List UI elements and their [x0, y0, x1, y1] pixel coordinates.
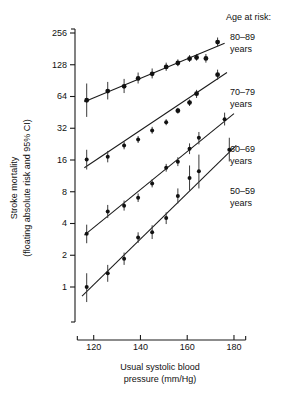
legend-entry-50-59-range: 50–59 — [230, 186, 255, 196]
y-axis-title-line1: Stroke mortality — [9, 156, 19, 219]
data-point — [122, 204, 126, 208]
y-tick-label-4: 4 — [62, 218, 67, 228]
legend-entry-60-69-range: 60–69 — [230, 144, 255, 154]
x-axis-title: Usual systolic blood pressure (mm/Hg) — [120, 362, 200, 384]
data-point — [187, 100, 192, 105]
fit-line — [82, 145, 236, 296]
data-point — [84, 98, 89, 103]
data-point — [194, 91, 199, 96]
x-tick-label-120: 120 — [86, 342, 101, 352]
chart-canvas: 1248163264128256 120140160180 Stroke mor… — [0, 0, 295, 413]
stroke-mortality-chart: 1248163264128256 120140160180 Stroke mor… — [0, 0, 295, 413]
legend-entry-70-79-unit: years — [230, 99, 253, 109]
y-tick-label-8: 8 — [62, 187, 67, 197]
series-70-79-years — [84, 70, 227, 170]
series-50-59-years — [82, 138, 236, 302]
data-point — [85, 157, 89, 161]
data-point — [136, 138, 140, 142]
data-point — [164, 216, 168, 220]
legend-heading: Age at risk: — [226, 12, 271, 22]
data-point — [197, 136, 201, 140]
data-point — [187, 56, 192, 61]
data-point — [194, 55, 199, 60]
data-point — [106, 209, 110, 213]
data-point — [176, 160, 180, 164]
series-80-89-years — [84, 38, 224, 117]
data-point — [175, 61, 180, 66]
data-point — [197, 169, 201, 173]
y-tick-label-256: 256 — [52, 28, 67, 38]
y-tick-label-16: 16 — [57, 155, 67, 165]
data-point — [122, 257, 126, 261]
data-point — [150, 230, 154, 234]
data-point — [150, 71, 155, 76]
x-tick-label-180: 180 — [226, 342, 241, 352]
data-point — [188, 176, 192, 180]
data-point — [136, 196, 140, 200]
legend-entry-70-79-range: 70–79 — [230, 87, 255, 97]
data-point — [106, 271, 110, 275]
data-point — [85, 285, 89, 289]
data-point — [215, 40, 220, 45]
data-point — [204, 56, 209, 61]
data-series-group — [82, 38, 236, 303]
y-tick-label-64: 64 — [57, 91, 67, 101]
data-point — [136, 235, 140, 239]
data-point — [164, 120, 168, 124]
data-point — [85, 232, 89, 236]
fit-line — [84, 43, 224, 102]
data-point — [136, 76, 141, 81]
data-point — [105, 89, 110, 94]
legend-entry-60-69-unit: years — [230, 156, 253, 166]
data-point — [106, 155, 110, 159]
legend-entry-80-89-unit: years — [230, 44, 253, 54]
y-axis-title-line2: (floating absolute risk and 95% CI) — [22, 119, 32, 257]
y-tick-label-2: 2 — [62, 250, 67, 260]
data-point — [223, 117, 227, 121]
fit-line — [84, 73, 227, 168]
data-point — [122, 143, 126, 147]
legend: Age at risk: 80–89 years 70–79 years 60–… — [226, 12, 271, 208]
x-axis-title-line2: pressure (mm/Hg) — [124, 374, 197, 384]
data-point — [175, 108, 180, 113]
y-axis: 1248163264128256 — [52, 28, 75, 322]
data-point — [215, 72, 220, 77]
y-tick-label-1: 1 — [62, 282, 67, 292]
x-axis-title-line1: Usual systolic blood — [120, 362, 200, 372]
data-point — [164, 65, 169, 70]
series-60-69-years — [84, 113, 234, 244]
data-point — [164, 166, 168, 170]
x-tick-label-140: 140 — [133, 342, 148, 352]
data-point — [188, 147, 192, 151]
legend-entry-80-89-range: 80–89 — [230, 32, 255, 42]
data-point — [122, 84, 127, 89]
x-axis: 120140160180 — [77, 335, 245, 352]
y-axis-title: Stroke mortality (floating absolute risk… — [9, 119, 32, 257]
legend-entry-50-59-unit: years — [230, 198, 253, 208]
x-tick-label-160: 160 — [180, 342, 195, 352]
y-tick-label-32: 32 — [57, 123, 67, 133]
fit-line — [84, 114, 234, 236]
data-point — [150, 181, 154, 185]
data-point — [150, 128, 154, 132]
data-point — [176, 194, 180, 198]
y-tick-label-128: 128 — [52, 60, 67, 70]
